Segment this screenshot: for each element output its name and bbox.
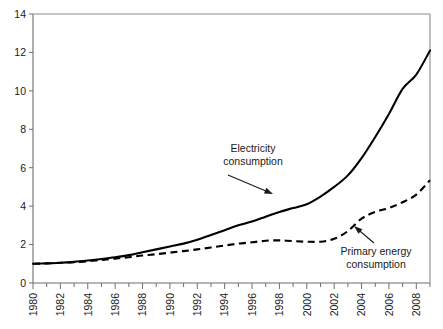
x-tick-label-group: 1988 xyxy=(136,293,148,317)
x-tick-label: 1996 xyxy=(246,293,258,317)
x-tick-label-group: 1990 xyxy=(164,293,176,317)
annotation-arrow-shaft xyxy=(228,175,267,191)
x-tick-label: 1986 xyxy=(109,293,121,317)
x-tick-label: 1998 xyxy=(273,293,285,317)
x-tick-label: 1992 xyxy=(191,293,203,317)
x-tick-label: 2004 xyxy=(355,293,367,317)
x-tick-label-group: 1994 xyxy=(218,293,230,317)
x-tick-label: 1982 xyxy=(54,293,66,317)
chart-figure: 02468101214 1980198219841986198819901992… xyxy=(0,0,443,329)
line-chart: 02468101214 1980198219841986198819901992… xyxy=(0,0,443,329)
annotation-label-line2: consumption xyxy=(223,155,283,167)
x-tick-label: 1984 xyxy=(82,293,94,317)
x-tick-label: 1990 xyxy=(164,293,176,317)
annotation-arrow-shaft xyxy=(359,230,374,243)
x-tick-label-group: 2004 xyxy=(355,293,367,317)
y-tick-label: 14 xyxy=(14,8,26,20)
annotation-label-line1: Electricity xyxy=(231,142,277,154)
x-tick-label: 2000 xyxy=(301,293,313,317)
y-tick-label: 2 xyxy=(20,238,26,250)
y-tick-label: 8 xyxy=(20,123,26,135)
annotation-primary-energy: Primary energyconsumption xyxy=(340,226,412,270)
x-tick-label: 1980 xyxy=(27,293,39,317)
y-axis-ticks: 02468101214 xyxy=(14,8,33,289)
x-tick-label: 1994 xyxy=(218,293,230,317)
x-tick-label-group: 1998 xyxy=(273,293,285,317)
annotation-label-line1: Primary energy xyxy=(340,245,412,257)
x-tick-label-group: 2000 xyxy=(301,293,313,317)
x-tick-label-group: 1982 xyxy=(54,293,66,317)
x-tick-label-group: 2002 xyxy=(328,293,340,317)
x-tick-label-group: 1996 xyxy=(246,293,258,317)
x-tick-label-group: 1984 xyxy=(82,293,94,317)
x-tick-label-group: 1986 xyxy=(109,293,121,317)
x-tick-label-group: 2008 xyxy=(410,293,422,317)
y-tick-label: 10 xyxy=(14,85,26,97)
x-tick-label: 1988 xyxy=(136,293,148,317)
x-tick-label-group: 1980 xyxy=(27,293,39,317)
x-tick-label-group: 2006 xyxy=(383,293,395,317)
annotation-arrow-head xyxy=(264,188,273,194)
x-tick-label: 2006 xyxy=(383,293,395,317)
annotations-group: ElectricityconsumptionPrimary energycons… xyxy=(223,142,412,270)
y-tick-label: 4 xyxy=(20,200,26,212)
x-axis-ticks: 1980198219841986198819901992199419961998… xyxy=(27,283,430,316)
annotation-electricity: Electricityconsumption xyxy=(223,142,283,194)
x-tick-label: 2002 xyxy=(328,293,340,317)
x-tick-label-group: 1992 xyxy=(191,293,203,317)
annotation-label-line2: consumption xyxy=(346,258,406,270)
y-tick-label: 0 xyxy=(20,277,26,289)
x-tick-label: 2008 xyxy=(410,293,422,317)
y-tick-label: 12 xyxy=(14,46,26,58)
y-tick-label: 6 xyxy=(20,162,26,174)
